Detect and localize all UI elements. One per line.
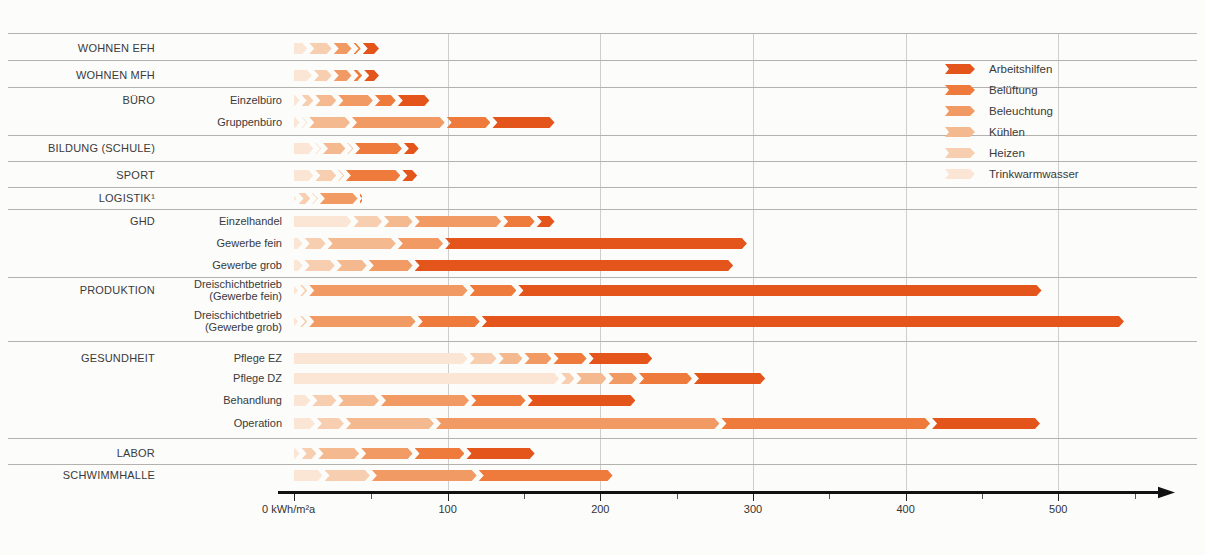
legend-swatch-icon	[945, 169, 975, 179]
legend-label: Beleuchtung	[989, 105, 1053, 117]
x-axis-tick-400	[906, 494, 907, 501]
segment-arbeitshilfen	[398, 95, 430, 106]
segment-belueftung	[470, 285, 517, 296]
segment-kuehlen	[323, 143, 345, 154]
x-axis-tick-500	[1058, 494, 1059, 501]
segment-trinkwarmwasser	[294, 418, 315, 429]
legend-label: Kühlen	[989, 126, 1025, 138]
segment-beleuchtung	[369, 260, 413, 271]
segment-beleuchtung	[309, 316, 415, 327]
segment-heizen	[314, 70, 332, 81]
segment-trinkwarmwasser	[294, 470, 323, 481]
subcategory-label: Gewerbe fein	[160, 237, 282, 249]
segment-beleuchtung	[338, 170, 344, 181]
x-axis-minor-tick-250	[677, 494, 678, 499]
bar-operation	[294, 418, 1042, 429]
category-label: GESUNDHEIT	[8, 352, 155, 364]
segment-belueftung	[447, 117, 491, 128]
category-label: GHD	[8, 215, 155, 227]
segment-beleuchtung	[415, 216, 502, 227]
legend-swatch-icon	[945, 127, 975, 137]
category-label: BILDUNG (SCHULE)	[8, 142, 155, 154]
subcategory-label: Gewerbe grob	[160, 259, 282, 271]
bar-sport	[294, 170, 419, 181]
segment-heizen	[302, 117, 308, 128]
segment-beleuchtung	[398, 238, 443, 249]
x-axis-tick-0	[294, 494, 295, 501]
legend-swatch-icon	[945, 106, 975, 116]
gridline-500	[1058, 33, 1059, 490]
segment-belueftung	[471, 395, 525, 406]
segment-trinkwarmwasser	[294, 193, 297, 204]
x-axis-tick-label-300: 300	[723, 503, 783, 515]
segment-kuehlen	[576, 373, 606, 384]
bar-einzelhandel	[294, 216, 557, 227]
segment-arbeitshilfen	[445, 238, 747, 249]
category-label: SPORT	[8, 169, 155, 181]
x-axis-line	[278, 491, 1164, 494]
segment-belueftung	[721, 418, 930, 429]
x-axis-tick-label-200: 200	[570, 503, 630, 515]
segment-kuehlen	[315, 95, 336, 106]
x-axis-tick-100	[448, 494, 449, 501]
segment-arbeitshilfen	[537, 216, 555, 227]
subcategory-label: Pflege EZ	[160, 352, 282, 364]
segment-heizen	[312, 395, 336, 406]
x-axis-minor-tick-50	[371, 494, 372, 499]
x-axis-tick-label-500: 500	[1028, 503, 1088, 515]
segment-heizen	[325, 470, 370, 481]
segment-kuehlen	[338, 395, 379, 406]
segment-arbeitshilfen	[694, 373, 765, 384]
segment-arbeitshilfen	[482, 316, 1124, 327]
segment-trinkwarmwasser	[294, 395, 310, 406]
segment-heizen	[354, 216, 383, 227]
x-axis-origin-label: 0 kWh/m²a	[262, 503, 315, 515]
bar-bildung-(schule)	[294, 143, 421, 154]
segment-arbeitshilfen	[415, 260, 734, 271]
segment-trinkwarmwasser	[294, 70, 312, 81]
legend-item-belueftung: Belüftung	[945, 83, 1038, 97]
subcategory-label: Pflege DZ	[160, 372, 282, 384]
segment-belueftung	[346, 170, 400, 181]
segment-heizen	[300, 316, 307, 327]
segment-trinkwarmwasser	[294, 353, 468, 364]
segment-trinkwarmwasser	[294, 316, 298, 327]
legend-item-trinkwarmwasser: Trinkwarmwasser	[945, 167, 1079, 181]
segment-heizen	[299, 193, 311, 204]
segment-beleuchtung	[347, 143, 353, 154]
x-axis-tick-label-400: 400	[876, 503, 936, 515]
segment-kuehlen	[309, 117, 350, 128]
segment-trinkwarmwasser	[294, 216, 352, 227]
segment-arbeitshilfen	[364, 70, 379, 81]
segment-arbeitshilfen	[589, 353, 653, 364]
bar-pflege-ez	[294, 353, 654, 364]
segment-heizen	[300, 285, 307, 296]
segment-heizen	[305, 238, 326, 249]
segment-heizen	[302, 95, 314, 106]
legend-item-arbeitshilfen: Arbeitshilfen	[945, 62, 1052, 76]
subcategory-label: Einzelbüro	[160, 94, 282, 106]
segment-belueftung	[354, 70, 363, 81]
segment-trinkwarmwasser	[294, 373, 559, 384]
segment-beleuchtung	[309, 285, 467, 296]
bar-gewerbe-fein	[294, 238, 749, 249]
row-separator	[8, 341, 1197, 342]
segment-arbeitshilfen	[492, 117, 554, 128]
segment-heizen	[305, 260, 335, 271]
segment-trinkwarmwasser	[294, 170, 313, 181]
subcategory-label: Behandlung	[160, 394, 282, 406]
x-axis-tick-200	[600, 494, 601, 501]
segment-beleuchtung	[381, 395, 469, 406]
segment-trinkwarmwasser	[294, 260, 303, 271]
x-axis-minor-tick-150	[524, 494, 525, 499]
segment-belueftung	[375, 95, 396, 106]
segment-belueftung	[354, 43, 361, 54]
legend-item-beleuchtung: Beleuchtung	[945, 104, 1053, 118]
segment-belueftung	[355, 143, 402, 154]
segment-beleuchtung	[338, 95, 373, 106]
category-label: LABOR	[8, 447, 155, 459]
segment-kuehlen	[312, 193, 318, 204]
segment-trinkwarmwasser	[294, 238, 303, 249]
segment-beleuchtung	[334, 43, 352, 54]
row-separator	[8, 438, 1197, 439]
